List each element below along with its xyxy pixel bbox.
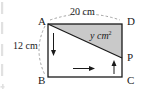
vertex-label-c: C (127, 75, 134, 86)
shaded-area-label: y cm2 (90, 30, 112, 41)
dimension-label-left: 12 cm (13, 41, 38, 51)
figure-canvas: A D B C P 20 cm 12 cm y cm2 (0, 0, 147, 97)
vertex-label-p: P (127, 52, 133, 63)
shaded-area-text: y cm (90, 30, 109, 41)
vertex-label-a: A (38, 16, 46, 27)
dimension-arc-left (39, 26, 45, 75)
arrow-up-icon (112, 60, 117, 74)
arrow-right-icon (73, 66, 95, 71)
dimension-label-top: 20 cm (70, 7, 95, 17)
shaded-area-exponent: 2 (109, 30, 112, 36)
edge-crop-artifacts (1, 2, 5, 89)
arrow-down-icon (51, 33, 56, 56)
vertex-label-d: D (127, 16, 135, 27)
vertex-label-b: B (38, 75, 45, 86)
